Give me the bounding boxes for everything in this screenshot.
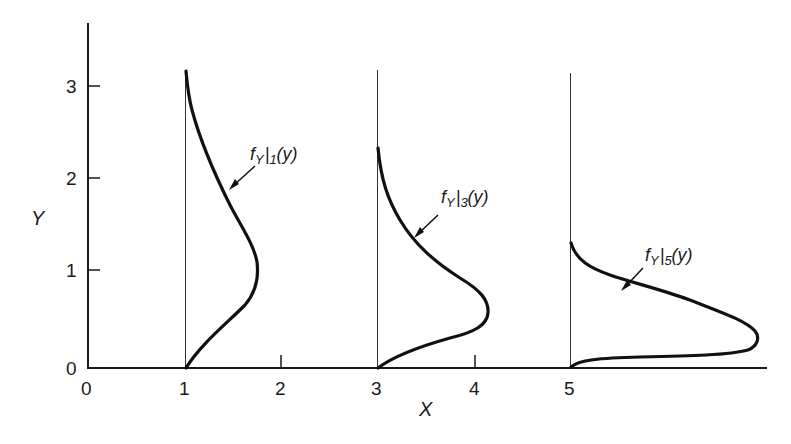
arrow-label-x3 (414, 215, 438, 238)
y-tick-label: 3 (66, 76, 77, 97)
x-tick-label: 2 (275, 378, 286, 399)
density-curve-x1 (186, 71, 258, 368)
x-axis-label: X (418, 398, 433, 420)
curve-label-x1: fY|1(y) (250, 144, 298, 167)
y-tick-label: 0 (66, 358, 77, 379)
curve-label-x3: fY|3(y) (441, 187, 489, 210)
y-axis-label: Y (31, 207, 46, 229)
conditional-density-chart: 0 1 2 3 0 1 2 3 4 5 X Y fY|1(y) fY (0, 0, 791, 444)
curve-label-x5: fY|5(y) (645, 245, 693, 268)
x-tick-label: 0 (81, 378, 92, 399)
x-tick-label: 1 (179, 378, 190, 399)
x-ticks: 0 1 2 3 4 5 (81, 355, 575, 399)
y-tick-label: 2 (66, 168, 77, 189)
x-tick-label: 4 (469, 378, 480, 399)
y-tick-label: 1 (66, 260, 77, 281)
arrow-label-x1 (229, 166, 255, 190)
y-ticks: 0 1 2 3 (66, 76, 100, 379)
x-tick-label: 3 (371, 378, 382, 399)
x-tick-label: 5 (564, 378, 575, 399)
density-curve-x3 (378, 148, 488, 368)
